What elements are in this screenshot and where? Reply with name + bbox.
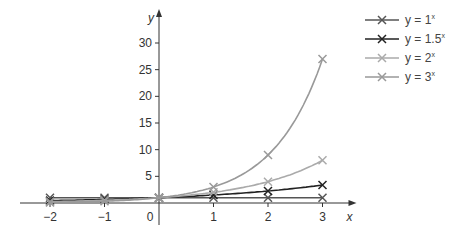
x-axis-arrow-icon bbox=[349, 200, 357, 206]
x-marker-icon bbox=[319, 156, 327, 164]
legend: y = 1x y = 1.5x y = 2x y = 3x bbox=[365, 10, 445, 86]
legend-item: y = 1x bbox=[365, 10, 445, 29]
x-marker-icon bbox=[365, 72, 399, 82]
x-tick-label: 1 bbox=[210, 210, 217, 224]
x-marker-icon bbox=[365, 34, 399, 44]
legend-item: y = 2x bbox=[365, 48, 445, 67]
x-axis-label: x bbox=[346, 210, 354, 224]
series-line bbox=[50, 59, 323, 202]
x-tick-label: 3 bbox=[319, 210, 326, 224]
y-tick-label: 5 bbox=[145, 169, 152, 183]
legend-item: y = 1.5x bbox=[365, 29, 445, 48]
series-line bbox=[50, 160, 323, 201]
x-marker-icon bbox=[365, 15, 399, 25]
y-tick-label: 10 bbox=[139, 143, 153, 157]
y-axis-label: y bbox=[147, 11, 155, 25]
y-tick-label: 20 bbox=[139, 89, 153, 103]
x-marker-icon bbox=[210, 183, 218, 191]
y-tick-label: 25 bbox=[139, 63, 153, 77]
y-axis-arrow-icon bbox=[156, 9, 162, 17]
x-marker-icon bbox=[365, 53, 399, 63]
x-tick-label: 2 bbox=[265, 210, 272, 224]
x-tick-label: 0 bbox=[147, 210, 154, 224]
y-tick-label: 15 bbox=[139, 116, 153, 130]
legend-item: y = 3x bbox=[365, 67, 445, 86]
x-tick-label: −1 bbox=[98, 210, 112, 224]
x-tick-label: −2 bbox=[43, 210, 57, 224]
x-marker-icon bbox=[264, 151, 272, 159]
x-marker-icon bbox=[319, 55, 327, 63]
y-tick-label: 30 bbox=[139, 36, 153, 50]
